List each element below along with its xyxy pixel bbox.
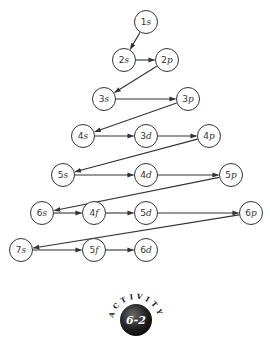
orbital-sublevel: f bbox=[95, 208, 98, 218]
orbital-sublevel: s bbox=[64, 170, 69, 180]
orbital-4f: 4f bbox=[82, 201, 106, 225]
orbital-4s: 4s bbox=[71, 124, 95, 148]
orbital-3s: 3s bbox=[92, 87, 116, 111]
orbital-2s: 2s bbox=[112, 48, 136, 72]
orbital-6p: 6p bbox=[239, 201, 263, 225]
orbital-sublevel: p bbox=[231, 170, 237, 180]
orbital-5d: 5d bbox=[134, 201, 158, 225]
orbital-3p: 3p bbox=[176, 87, 200, 111]
orbital-sublevel: s bbox=[84, 131, 89, 141]
arrow-1s-to-2s bbox=[130, 32, 140, 49]
orbital-3d: 3d bbox=[134, 124, 158, 148]
orbital-sublevel: p bbox=[167, 55, 173, 65]
orbital-4p: 4p bbox=[197, 124, 221, 148]
orbital-sublevel: p bbox=[209, 131, 215, 141]
orbital-sublevel: d bbox=[146, 208, 152, 218]
orbital-sublevel: s bbox=[147, 17, 152, 27]
orbital-sublevel: d bbox=[146, 131, 152, 141]
activity-badge: ACTIVITY 6-2 bbox=[106, 292, 166, 336]
orbital-sublevel: s bbox=[43, 208, 48, 218]
orbital-5p: 5p bbox=[219, 163, 243, 187]
orbital-sublevel: d bbox=[146, 170, 152, 180]
orbital-sublevel: f bbox=[95, 245, 98, 255]
orbital-2p: 2p bbox=[155, 48, 179, 72]
orbital-sublevel: s bbox=[125, 55, 130, 65]
orbital-7s: 7s bbox=[9, 238, 33, 262]
orbital-6d: 6d bbox=[134, 238, 158, 262]
orbital-4d: 4d bbox=[134, 163, 158, 187]
orbital-sublevel: s bbox=[105, 94, 110, 104]
orbital-5f: 5f bbox=[82, 238, 106, 262]
orbital-5s: 5s bbox=[51, 163, 75, 187]
orbital-sublevel: p bbox=[251, 208, 257, 218]
orbital-sublevel: s bbox=[22, 245, 27, 255]
orbital-sublevel: d bbox=[146, 245, 152, 255]
orbital-6s: 6s bbox=[30, 201, 54, 225]
badge-label: 6-2 bbox=[126, 314, 146, 327]
orbital-sublevel: p bbox=[188, 94, 194, 104]
orbital-1s: 1s bbox=[134, 10, 158, 34]
